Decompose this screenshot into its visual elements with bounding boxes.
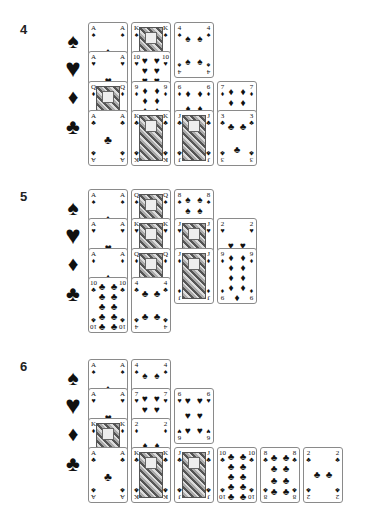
face-card-portrait (139, 115, 163, 161)
card-index: A♦ (119, 251, 126, 265)
card-index: A♣ (90, 486, 97, 500)
section-label: 4 (20, 22, 27, 37)
card-index: 7♥ (162, 391, 169, 405)
card-4-of-spades[interactable]: 4♠4♠4♠4♠♠♠♠♠ (174, 22, 214, 78)
card-index: K♣ (162, 149, 169, 163)
card-j-of-clubs[interactable]: J♣J♣J♣J♣ (174, 110, 214, 166)
card-index: 9♦ (248, 251, 255, 265)
card-index: 3♣ (248, 113, 255, 127)
card-index: 9♦ (162, 84, 169, 98)
card-pips: ♣♣♣♣ (139, 282, 163, 328)
card-pips: ♣♣♣♣♣♣♣♣♣♣ (96, 282, 120, 328)
card-index: Q♠ (162, 192, 169, 206)
card-index: 2♥ (248, 221, 255, 235)
card-index: Q♦ (119, 84, 126, 98)
card-index: A♣ (119, 149, 126, 163)
card-4-of-clubs[interactable]: 4♣4♣4♣4♣♣♣♣♣ (131, 277, 171, 333)
section-label: 5 (20, 189, 27, 204)
card-index: 2♣ (334, 486, 341, 500)
card-index: A♥ (90, 221, 97, 235)
card-pips: ♣♣♣♣♣♣♣♣♣♣ (225, 452, 249, 498)
card-index: 2♦ (162, 421, 169, 435)
card-j-of-diamonds[interactable]: J♦J♦J♦J♦ (174, 248, 214, 304)
heart-icon: ♥ (62, 394, 84, 416)
card-index: J♥ (205, 221, 212, 235)
card-index: A♠ (119, 362, 126, 376)
card-index: K♥ (162, 221, 169, 235)
diamond-icon: ♦ (62, 423, 84, 445)
card-index: 10♥ (162, 54, 169, 68)
card-pips: ♣♣ (311, 452, 335, 498)
card-index: A♦ (90, 251, 97, 265)
card-index: 4♣ (162, 280, 169, 294)
card-index: J♦ (205, 287, 212, 301)
card-index: 2♣ (334, 450, 341, 464)
card-index: 10♣ (248, 450, 255, 464)
spade-icon: ♠ (62, 367, 84, 389)
card-index: K♣ (162, 486, 169, 500)
face-card-portrait (182, 253, 206, 299)
card-index: A♣ (90, 113, 97, 127)
card-index: 4♠ (162, 362, 169, 376)
club-icon: ♣ (89, 133, 127, 147)
card-index: A♥ (119, 391, 126, 405)
card-index: A♥ (119, 54, 126, 68)
card-pips: ♣♣♣♣♣♣♣♣ (268, 452, 292, 498)
card-index: J♦ (205, 251, 212, 265)
card-index: A♣ (119, 113, 126, 127)
card-index: K♣ (162, 113, 169, 127)
card-index: A♥ (90, 54, 97, 68)
card-index: 10♣ (119, 280, 126, 294)
card-k-of-clubs[interactable]: K♣K♣K♣K♣ (131, 447, 171, 503)
card-index: K♠ (162, 25, 169, 39)
face-card-portrait (182, 115, 206, 161)
card-index: A♠ (90, 25, 97, 39)
card-index: 4♣ (162, 316, 169, 330)
card-index: J♣ (205, 486, 212, 500)
card-8-of-clubs[interactable]: 8♣8♣8♣8♣♣♣♣♣♣♣♣♣ (260, 447, 300, 503)
diamond-icon: ♦ (62, 253, 84, 275)
card-index: 6♦ (205, 84, 212, 98)
card-index: 8♠ (205, 192, 212, 206)
card-index: 7♦ (248, 84, 255, 98)
card-index: 4♠ (205, 61, 212, 75)
spade-icon: ♠ (62, 30, 84, 52)
card-2-of-clubs[interactable]: 2♣2♣2♣2♣♣♣ (303, 447, 343, 503)
card-index: 8♣ (291, 486, 298, 500)
card-index: 10♣ (248, 486, 255, 500)
heart-icon: ♥ (62, 57, 84, 79)
face-card-portrait (139, 452, 163, 498)
card-a-of-clubs[interactable]: A♣A♣A♣A♣♣ (88, 447, 128, 503)
card-j-of-clubs[interactable]: J♣J♣J♣J♣ (174, 447, 214, 503)
card-6-of-hearts[interactable]: 6♥6♥6♥6♥♥♥♥♥♥♥ (174, 388, 214, 444)
card-pips: ♥♥♥♥♥♥ (182, 393, 206, 439)
card-index: A♣ (119, 486, 126, 500)
card-index: 3♣ (248, 149, 255, 163)
card-k-of-clubs[interactable]: K♣K♣K♣K♣ (131, 110, 171, 166)
card-index: Q♦ (162, 251, 169, 265)
card-index: A♠ (90, 192, 97, 206)
card-index: A♥ (119, 221, 126, 235)
card-index: J♣ (205, 113, 212, 127)
club-icon: ♣ (89, 470, 127, 484)
diamond-icon: ♦ (62, 86, 84, 108)
card-10-of-clubs[interactable]: 10♣10♣10♣10♣♣♣♣♣♣♣♣♣♣♣ (217, 447, 257, 503)
section-label: 6 (20, 359, 27, 374)
card-9-of-diamonds[interactable]: 9♦9♦9♦9♦♦♦♦♦♦♦♦♦♦ (217, 248, 257, 304)
card-index: A♠ (119, 25, 126, 39)
card-pips: ♣♣♣ (225, 115, 249, 161)
card-pips: ♦♦♦♦♦♦♦♦♦ (225, 253, 249, 299)
heart-icon: ♥ (62, 224, 84, 246)
card-index: A♠ (90, 362, 97, 376)
card-a-of-clubs[interactable]: A♣A♣A♣A♣♣ (88, 110, 128, 166)
club-icon: ♣ (62, 283, 84, 305)
card-index: A♣ (90, 450, 97, 464)
card-index: A♣ (90, 149, 97, 163)
card-index: A♣ (119, 450, 126, 464)
card-3-of-clubs[interactable]: 3♣3♣3♣3♣♣♣♣ (217, 110, 257, 166)
card-index: J♣ (205, 450, 212, 464)
card-index: 6♥ (205, 427, 212, 441)
card-10-of-clubs[interactable]: 10♣10♣10♣10♣♣♣♣♣♣♣♣♣♣♣ (88, 277, 128, 333)
card-index: 4♠ (205, 25, 212, 39)
card-index: K♦ (119, 421, 126, 435)
